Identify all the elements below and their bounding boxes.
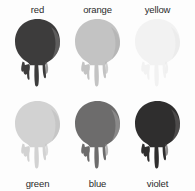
blob-drip-highlight-red: [45, 62, 48, 74]
swatch-label-orange: orange: [65, 4, 130, 15]
paint-blob-yellow-icon: [125, 17, 190, 91]
swatch-label-yellow: yellow: [125, 4, 190, 15]
paint-blob-red-icon: [5, 17, 70, 91]
blob-drip-highlight-orange: [105, 62, 108, 74]
swatch-green: green: [5, 96, 70, 191]
paint-blob-blue-icon: [65, 99, 130, 173]
paint-blob-orange-icon: [65, 17, 130, 91]
paint-blob-violet-icon: [125, 99, 190, 173]
swatch-blue: blue: [65, 96, 130, 191]
blob-drip-highlight-green: [45, 144, 48, 156]
blob-drip-highlight-yellow: [165, 62, 168, 74]
color-swatch-figure: red orange: [0, 0, 195, 191]
blob-drip-highlight-violet: [165, 144, 168, 156]
paint-blob-red: [5, 17, 70, 91]
paint-blob-green-icon: [5, 99, 70, 173]
paint-blob-yellow: [125, 17, 190, 91]
swatch-orange: orange: [65, 0, 130, 95]
swatch-yellow: yellow: [125, 0, 190, 95]
swatch-red: red: [5, 0, 70, 95]
swatch-label-red: red: [5, 4, 70, 15]
swatch-label-blue: blue: [65, 178, 130, 189]
paint-blob-orange: [65, 17, 130, 91]
swatch-label-green: green: [5, 178, 70, 189]
paint-blob-blue: [65, 99, 130, 173]
swatch-label-violet: violet: [125, 178, 190, 189]
paint-blob-green: [5, 99, 70, 173]
paint-blob-violet: [125, 99, 190, 173]
swatch-violet: violet: [125, 96, 190, 191]
blob-drip-highlight-blue: [105, 144, 108, 156]
